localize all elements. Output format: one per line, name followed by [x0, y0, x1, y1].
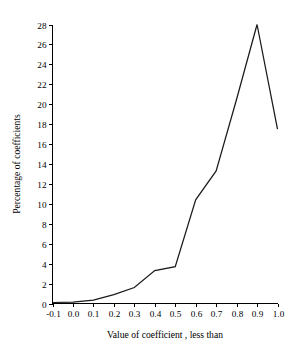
y-tick-label: 24 [37, 60, 47, 70]
x-tick-label: 0.2 [109, 309, 121, 319]
x-tick-label: 0.6 [191, 309, 203, 319]
y-tick-label: 26 [37, 40, 47, 50]
chart-figure: 0246810121416182022242628 -0.10.00.10.20… [0, 0, 308, 358]
x-tick-label: 0.8 [232, 309, 244, 319]
y-tick-label: 14 [37, 160, 47, 170]
x-tick-label: 1.0 [273, 309, 285, 319]
x-tick-label: 0.7 [211, 309, 223, 319]
y-tick-label: 28 [37, 21, 47, 31]
y-tick-label: 8 [42, 220, 47, 230]
y-tick-label: 16 [37, 140, 47, 150]
x-tick-label: -0.1 [46, 309, 61, 319]
x-axis-title: Value of coefficient , less than [107, 329, 223, 340]
line-chart: 0246810121416182022242628 -0.10.00.10.20… [0, 0, 308, 358]
y-tick-label: 6 [42, 240, 47, 250]
x-tick-label: 0.1 [88, 309, 100, 319]
y-tick-label: 12 [37, 180, 47, 190]
y-tick-label: 2 [42, 280, 47, 290]
y-tick-label: 22 [37, 80, 47, 90]
y-axis-title: Percentage of coefficients [11, 114, 22, 214]
y-tick-label: 20 [37, 100, 47, 110]
y-tick-label: 18 [37, 120, 47, 130]
x-tick-label: 0.0 [68, 309, 80, 319]
x-tick-label: 0.5 [170, 309, 182, 319]
y-tick-label: 4 [42, 260, 47, 270]
y-tick-label: 10 [37, 200, 47, 210]
x-tick-label: 0.9 [252, 309, 264, 319]
x-tick-label: 0.3 [129, 309, 141, 319]
x-tick-label: 0.4 [150, 309, 162, 319]
